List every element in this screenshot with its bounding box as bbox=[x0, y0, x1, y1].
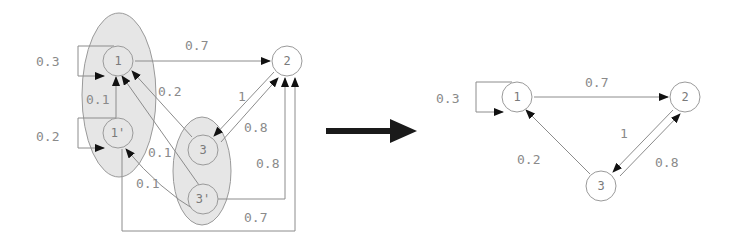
diagram-canvas: 0.3 0.2 0.1 0.7 0.2 0.1 0.1 1 0.8 0.8 0.… bbox=[0, 0, 734, 248]
edge-label: 0.1 bbox=[148, 145, 171, 160]
transform-arrow-icon bbox=[326, 119, 417, 143]
left-diagram: 0.3 0.2 0.1 0.7 0.2 0.1 0.1 1 0.8 0.8 0.… bbox=[36, 13, 302, 231]
edge-label: 0.2 bbox=[517, 152, 540, 167]
svg-text:2: 2 bbox=[283, 54, 290, 68]
edge-label: 0.3 bbox=[436, 91, 459, 106]
edge-label: 0.2 bbox=[36, 129, 59, 144]
edge-label: 0.7 bbox=[244, 210, 267, 225]
svg-text:1: 1 bbox=[114, 54, 121, 68]
edge-label: 0.2 bbox=[158, 84, 181, 99]
node-1: 1 bbox=[502, 82, 532, 112]
node-1-prime: 1' bbox=[103, 118, 133, 148]
edge-label: 0.7 bbox=[585, 75, 608, 90]
edge-label: 0.8 bbox=[256, 156, 279, 171]
edge-label: 1 bbox=[238, 89, 246, 104]
edge-label: 0.8 bbox=[655, 155, 678, 170]
node-3: 3 bbox=[586, 171, 616, 201]
edge-label: 0.7 bbox=[185, 38, 208, 53]
node-3: 3 bbox=[188, 135, 218, 165]
node-2: 2 bbox=[670, 82, 700, 112]
svg-text:1: 1 bbox=[513, 90, 520, 104]
svg-text:2: 2 bbox=[681, 90, 688, 104]
edge-label: 0.1 bbox=[136, 176, 159, 191]
right-diagram: 0.3 0.7 1 0.8 0.2 1 2 3 bbox=[436, 75, 700, 201]
edge-label: 0.1 bbox=[86, 92, 109, 107]
svg-text:3': 3' bbox=[196, 192, 210, 206]
svg-text:1': 1' bbox=[111, 126, 125, 140]
node-1: 1 bbox=[103, 46, 133, 76]
node-2: 2 bbox=[272, 46, 302, 76]
svg-text:3: 3 bbox=[597, 179, 604, 193]
node-3-prime: 3' bbox=[188, 184, 218, 214]
svg-text:3: 3 bbox=[199, 143, 206, 157]
edge-label: 0.3 bbox=[36, 54, 59, 69]
edge-label: 1 bbox=[620, 126, 628, 141]
edge-label: 0.8 bbox=[244, 120, 267, 135]
